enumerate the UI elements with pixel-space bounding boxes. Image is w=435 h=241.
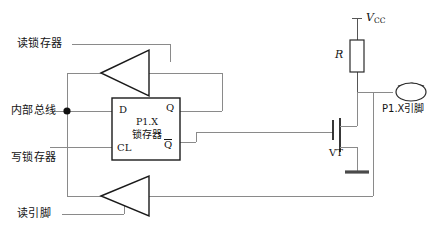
latch-name-cn: 锁存器: [122, 130, 172, 140]
pin-name-label: P1.X引脚: [382, 104, 424, 114]
latch-input-d-label: D: [119, 105, 127, 115]
read-pin-buffer: [101, 176, 149, 216]
vcc-label: VCC: [366, 12, 385, 25]
write-latch-label: 写锁存器: [11, 152, 57, 163]
bus-junction-dot: [63, 107, 70, 114]
latch-input-cl-label: CL: [117, 143, 131, 153]
qbar-overline-text: Q: [164, 139, 172, 151]
internal-bus-label: 内部总线: [11, 105, 57, 116]
vcc-symbol-text: V: [366, 11, 374, 24]
resistor-label: R: [335, 49, 343, 60]
latch-output-q-label: Q: [166, 103, 174, 113]
read-pin-label: 读引脚: [17, 208, 51, 219]
circuit-schematic-canvas: [0, 0, 435, 241]
read-latch-label: 读锁存器: [17, 38, 63, 49]
read-latch-buffer: [101, 50, 149, 96]
latch-name-id: P1.X: [128, 117, 166, 127]
transistor-label: VT: [329, 148, 343, 158]
resistor-symbol: [350, 40, 364, 72]
circuit-diagram: 读锁存器 内部总线 写锁存器 读引脚 D CL Q Q P1.X 锁存器 VCC…: [0, 0, 435, 241]
pin-terminal-symbol: [396, 83, 426, 101]
vcc-subscript-text: CC: [374, 16, 385, 25]
